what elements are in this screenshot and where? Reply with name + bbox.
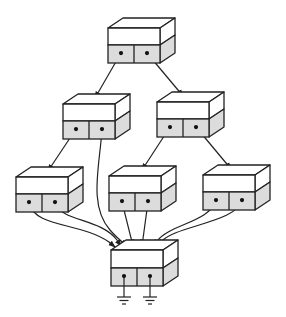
box-body (203, 175, 255, 192)
port-dot-left (214, 198, 218, 202)
port-dot-right (146, 199, 150, 203)
box-node-mid-left (63, 94, 130, 139)
port-dot-left (168, 125, 172, 129)
box-body (109, 176, 161, 193)
port-dot-right (194, 125, 198, 129)
port-dot-left (27, 200, 31, 204)
box-body (16, 177, 68, 194)
box-body (111, 250, 163, 268)
box-node-mid-right (157, 92, 224, 137)
box-node-leaf-left (16, 167, 83, 212)
box-node-leaf-right (203, 165, 270, 210)
port-dot-right (240, 198, 244, 202)
box-body (63, 104, 115, 121)
port-dot-right (100, 127, 104, 131)
port-dot-right (53, 200, 57, 204)
box-body (108, 28, 160, 45)
node-layer (16, 18, 270, 286)
box-node-sink (111, 240, 178, 286)
box-node-leaf-middle (109, 166, 176, 211)
port-dot-left (120, 199, 124, 203)
box-body (157, 102, 209, 119)
box-node-root (108, 18, 175, 63)
port-dot-left (74, 127, 78, 131)
box-tree-diagram (0, 0, 286, 317)
port-dot-left (119, 51, 123, 55)
port-dot-right (145, 51, 149, 55)
edge-layer (29, 53, 242, 247)
